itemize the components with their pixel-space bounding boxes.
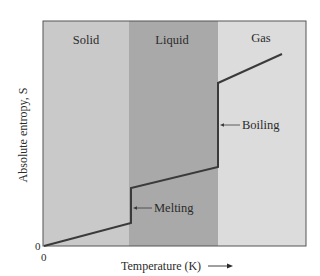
- solid-label: Solid: [73, 33, 100, 47]
- y-axis-label: Absolute entropy, S: [16, 88, 30, 183]
- x-origin-tick: 0: [41, 251, 47, 263]
- x-axis-arrow-icon: [227, 264, 233, 269]
- liquid-label: Liquid: [155, 33, 189, 47]
- x-axis-label: Temperature (K): [121, 259, 201, 273]
- x-axis-title: Temperature (K): [121, 259, 233, 273]
- boiling-label: Boiling: [242, 118, 280, 132]
- melting-label: Melting: [154, 201, 194, 215]
- gas-label: Gas: [251, 31, 271, 45]
- solid-region: [43, 21, 129, 246]
- gas-region: [218, 21, 306, 246]
- entropy-phase-diagram: Solid Liquid Gas Melting Boiling 0 0 Abs…: [0, 0, 320, 276]
